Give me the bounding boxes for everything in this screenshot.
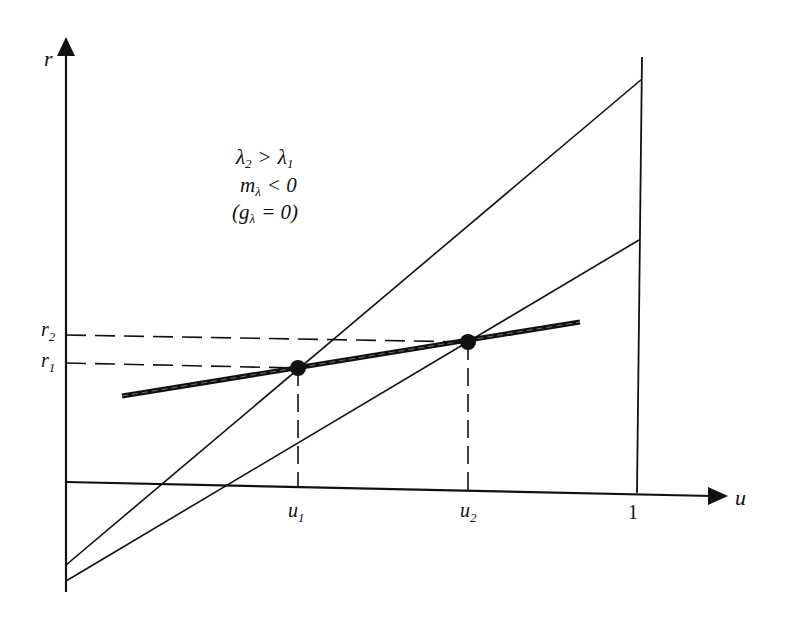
u-tick-one-label: 1 bbox=[628, 501, 638, 523]
u-axis-arrow-icon bbox=[708, 487, 728, 505]
annotation-lambda-inequality: λ2>λ1 bbox=[235, 145, 293, 171]
line-shallow bbox=[66, 240, 639, 581]
diagram-canvas: r u 1 r2 r1 u1 u2 λ2>λ1 mλ< 0 (gλ= 0) bbox=[0, 0, 797, 630]
annotation-g-lambda: (gλ= 0) bbox=[232, 200, 298, 226]
point-u2-r2 bbox=[460, 334, 476, 350]
r1-label: r1 bbox=[41, 349, 55, 375]
point-u1-r1 bbox=[290, 360, 306, 376]
annotation-m-lambda: mλ< 0 bbox=[240, 173, 297, 199]
u2-label: u2 bbox=[460, 499, 477, 525]
u1-label: u1 bbox=[288, 499, 305, 525]
r1-dashed-line bbox=[66, 363, 298, 368]
r2-dashed-line bbox=[66, 335, 468, 342]
u-axis-label: u bbox=[735, 485, 746, 510]
r-axis-arrow-icon bbox=[57, 37, 75, 56]
u-equals-one-line bbox=[637, 57, 642, 493]
r2-label: r2 bbox=[41, 318, 56, 344]
r-axis-label: r bbox=[44, 46, 53, 71]
